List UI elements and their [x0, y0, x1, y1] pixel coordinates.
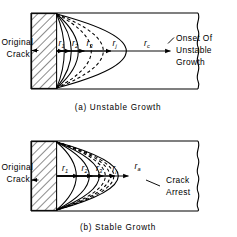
- label-r2: r2: [72, 38, 79, 49]
- label-b-r2: r2: [82, 163, 89, 174]
- label-b-ra: ra: [135, 161, 141, 172]
- panel-b-hatched-region: [32, 142, 57, 211]
- figure-canvas: r1 r2 r3 rj rc Original Crack: [0, 0, 237, 237]
- label-r3: r3: [87, 38, 94, 49]
- panel-a-left-callout: Original Crack: [2, 37, 34, 59]
- label-b-rj: rj: [113, 163, 118, 174]
- panel-a-caption: (a) Unstable Growth: [75, 103, 162, 112]
- label-b-r1: r1: [62, 163, 68, 174]
- panel-a-right-leader: [168, 38, 174, 44]
- left-callout-b-line2: Crack: [7, 174, 31, 184]
- panel-b: r1 r2 r3 rj ra Original Crack: [2, 141, 199, 232]
- panel-b-left-callout: Original Crack: [2, 162, 34, 184]
- panel-b-caption: (b) Stable Growth: [80, 223, 156, 232]
- panel-b-break-line: [197, 141, 199, 211]
- right-callout-line1: Onset Of: [176, 33, 213, 43]
- right-callout-b-line1: Crack: [166, 175, 190, 185]
- right-callout-b-line2: Arrest: [166, 187, 191, 197]
- panel-a-right-callout: Onset Of Unstable Growth: [176, 33, 213, 67]
- figure-crack-growth: r1 r2 r3 rj rc Original Crack: [0, 0, 237, 237]
- left-callout-line1: Original: [2, 37, 34, 47]
- right-callout-line3: Growth: [176, 57, 205, 67]
- left-callout-b-line1: Original: [2, 162, 34, 172]
- panel-b-right-callout: Crack Arrest: [166, 175, 191, 197]
- label-rc: rc: [144, 38, 150, 49]
- right-callout-line2: Unstable: [176, 45, 212, 55]
- left-callout-line2: Crack: [7, 49, 31, 59]
- panel-a-radius-labels: r1 r2 r3 rj rc: [59, 38, 150, 49]
- panel-a-hatched-region: [32, 14, 57, 89]
- panel-b-right-leader: [146, 180, 160, 186]
- label-rj: rj: [113, 38, 118, 49]
- panel-a: r1 r2 r3 rj rc Original Crack: [2, 13, 213, 112]
